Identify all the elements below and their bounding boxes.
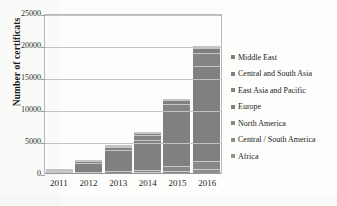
bar-segment[interactable]: [134, 140, 161, 170]
y-axis-tick-label: 15000: [7, 74, 41, 82]
legend-item-label: Middle East: [238, 53, 277, 62]
bar-slot: [45, 15, 74, 174]
legend-swatch-icon: [231, 72, 235, 76]
stacked-bar[interactable]: [46, 169, 73, 174]
legend-swatch-icon: [231, 88, 235, 92]
bar-segment[interactable]: [75, 163, 102, 172]
gridline: [45, 15, 221, 16]
legend-item[interactable]: Europe: [231, 99, 335, 116]
bar-slot: [104, 15, 133, 174]
y-axis-tick-label: 20000: [7, 42, 41, 50]
gridline: [45, 143, 221, 144]
bar-segment[interactable]: [46, 173, 73, 174]
legend-item-label: Central / South America: [238, 135, 316, 144]
y-axis-tick-mark: [41, 143, 45, 144]
chart-figure: Number of certificats 250002000015000100…: [0, 0, 337, 206]
y-axis-tick-label: 10000: [7, 106, 41, 114]
legend-swatch-icon: [231, 105, 235, 109]
x-axis-ticks: 201120122013201420152016: [44, 178, 222, 188]
bar-segment[interactable]: [193, 161, 220, 169]
bar-segment[interactable]: [193, 53, 220, 66]
legend-swatch-icon: [231, 138, 235, 142]
y-axis-tick-mark: [41, 175, 45, 176]
stacked-bar[interactable]: [75, 160, 102, 174]
bar-segment[interactable]: [105, 173, 132, 174]
stacked-bar[interactable]: [134, 132, 161, 174]
bar-slot: [192, 15, 221, 174]
legend-swatch-icon: [231, 121, 235, 125]
bar-group: [45, 15, 221, 174]
legend-item[interactable]: North America: [231, 115, 335, 132]
x-axis-tick-label: 2014: [133, 178, 163, 188]
y-axis-tick-mark: [41, 79, 45, 80]
legend-item-label: Central and South Asia: [238, 69, 312, 78]
y-axis-tick-label: 5000: [7, 138, 41, 146]
x-axis-tick-label: 2013: [103, 178, 133, 188]
gridline: [45, 47, 221, 48]
bar-segment[interactable]: [193, 172, 220, 174]
y-axis-ticks: 2500020000150001000050000: [0, 0, 41, 206]
y-axis-tick-label: 25000: [7, 10, 41, 18]
legend-item-label: Africa: [238, 152, 258, 161]
x-axis-tick-label: 2016: [192, 178, 222, 188]
y-axis-tick-label: 0: [7, 170, 41, 178]
bar-segment[interactable]: [193, 66, 220, 161]
bar-segment[interactable]: [134, 173, 161, 174]
bar-segment[interactable]: [163, 173, 190, 174]
y-axis-tick-mark: [41, 111, 45, 112]
bar-segment[interactable]: [75, 173, 102, 174]
bar-slot: [74, 15, 103, 174]
x-axis-tick-label: 2011: [44, 178, 74, 188]
bar-segment[interactable]: [163, 111, 190, 166]
chart-legend: Middle EastCentral and South AsiaEast As…: [231, 49, 335, 165]
legend-item[interactable]: Africa: [231, 148, 335, 165]
bar-slot: [133, 15, 162, 174]
legend-item[interactable]: Central / South America: [231, 132, 335, 149]
gridline: [45, 79, 221, 80]
bar-slot: [162, 15, 191, 174]
stacked-bar[interactable]: [105, 145, 132, 174]
x-axis-tick-label: 2012: [74, 178, 104, 188]
y-axis-tick-mark: [41, 47, 45, 48]
legend-item[interactable]: East Asia and Pacific: [231, 82, 335, 99]
legend-item[interactable]: Central and South Asia: [231, 66, 335, 83]
legend-item[interactable]: Middle East: [231, 49, 335, 66]
legend-item-label: Europe: [238, 102, 261, 111]
legend-swatch-icon: [231, 154, 235, 158]
y-axis-tick-mark: [41, 15, 45, 16]
plot-area: [44, 14, 222, 174]
legend-item-label: East Asia and Pacific: [238, 86, 306, 95]
bar-segment[interactable]: [105, 150, 132, 171]
stacked-bar-chart: Number of certificats 250002000015000100…: [0, 0, 337, 206]
legend-swatch-icon: [231, 55, 235, 59]
x-axis-tick-label: 2015: [163, 178, 193, 188]
gridline: [45, 111, 221, 112]
legend-item-label: North America: [238, 119, 286, 128]
